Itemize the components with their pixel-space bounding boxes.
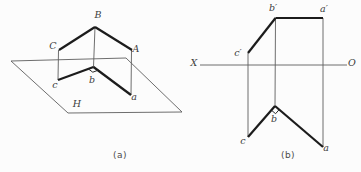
projector-A-a	[131, 50, 132, 95]
caption-b: (b)	[281, 150, 295, 160]
projector-bprime-b	[275, 18, 276, 106]
label-X: X	[190, 57, 199, 68]
edge-B-A	[95, 27, 132, 50]
figure-a: BCAcbaH	[11, 9, 182, 113]
label-a: a	[131, 91, 137, 102]
label-b: b	[271, 113, 277, 124]
plane-H-outline	[11, 58, 182, 113]
edge-cprime-bprime	[248, 18, 276, 53]
label-c-prime: c′	[234, 47, 242, 58]
label-O: O	[348, 57, 356, 68]
edge-b-a	[94, 67, 132, 95]
label-a-prime: a′	[320, 3, 329, 14]
caption-a: (a)	[113, 150, 127, 160]
diagram-canvas: BCAcbaHb′a′c′XOcba (a) (b)	[0, 0, 361, 172]
label-b-prime: b′	[269, 2, 278, 13]
label-c: c	[240, 135, 246, 146]
edge-b-a	[275, 106, 323, 147]
label-A: A	[132, 43, 140, 54]
label-b: b	[89, 74, 95, 85]
edge-C-B	[59, 27, 95, 50]
figure-b: b′a′c′XOcba	[190, 2, 356, 153]
label-H: H	[72, 98, 82, 109]
label-C: C	[49, 40, 57, 51]
descriptive-geometry-diagram: BCAcbaHb′a′c′XOcba	[0, 0, 361, 172]
label-c: c	[52, 79, 58, 90]
label-a: a	[323, 142, 329, 153]
projector-C-c	[58, 50, 59, 80]
label-B: B	[94, 9, 102, 20]
projector-B-b	[94, 27, 96, 67]
